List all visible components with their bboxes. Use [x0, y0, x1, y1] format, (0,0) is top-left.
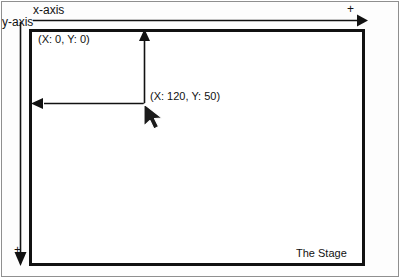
y-axis-positive-marker: +	[14, 244, 21, 256]
stage-rectangle	[31, 31, 364, 265]
x-axis-label: x-axis	[33, 4, 64, 16]
y-axis-label: y-axis	[2, 16, 33, 28]
origin-coordinate-label: (X: 0, Y: 0)	[38, 34, 90, 45]
diagram-canvas: x-axis y-axis + + (X: 0, Y: 0) (X: 120, …	[0, 0, 403, 280]
point-coordinate-label: (X: 120, Y: 50)	[150, 91, 220, 102]
arrow-right-icon	[357, 15, 368, 27]
stage-label: The Stage	[296, 248, 347, 259]
x-axis-positive-marker: +	[347, 3, 354, 15]
